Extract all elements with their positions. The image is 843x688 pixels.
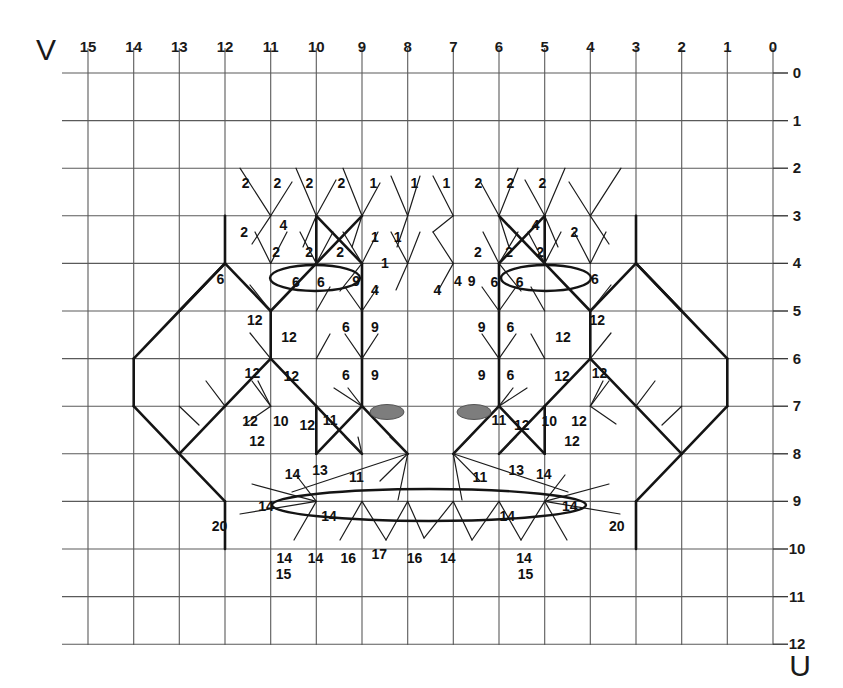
top-tick-3: 3 (632, 38, 640, 55)
top-axis-tick-labels: 1514131211109876543210 (80, 38, 778, 55)
annotation-12: 4 (532, 217, 540, 233)
annotation-33: 6 (591, 271, 599, 287)
annotation-13: 2 (570, 224, 578, 240)
diagram-canvas: V U 1514131211109876543210 0123456789101… (0, 0, 843, 688)
annotation-38: 9 (478, 319, 486, 335)
axis-label-u: U (789, 649, 811, 682)
right-tick-5: 5 (793, 302, 801, 319)
right-tick-2: 2 (793, 159, 801, 176)
lattice-boundary-paths (134, 216, 728, 549)
annotation-37: 9 (371, 319, 379, 335)
annotation-53: 11 (323, 412, 338, 428)
annotation-36: 6 (342, 319, 350, 335)
annotation-57: 12 (571, 413, 587, 429)
annotation-56: 10 (541, 413, 557, 429)
right-tick-10: 10 (789, 540, 806, 557)
annotation-30: 9 (468, 273, 476, 289)
annotation-59: 12 (564, 433, 580, 449)
top-tick-15: 15 (80, 38, 97, 55)
right-tick-1: 1 (793, 112, 801, 129)
top-tick-2: 2 (677, 38, 685, 55)
right-tick-3: 3 (793, 207, 801, 224)
annotation-9: 2 (538, 175, 546, 191)
annotation-31: 6 (491, 274, 499, 290)
marker-left (370, 405, 404, 420)
annotation-47: 6 (507, 367, 515, 383)
annotation-74: 14 (308, 550, 324, 566)
highlight-ellipse-right (501, 265, 591, 291)
top-tick-6: 6 (495, 38, 503, 55)
annotation-24: 6 (317, 274, 325, 290)
grid-lines (62, 48, 788, 645)
annotation-10: 2 (240, 224, 248, 240)
annotation-7: 2 (475, 175, 483, 191)
annotation-35: 12 (281, 329, 297, 345)
annotation-15: 2 (305, 244, 313, 260)
top-tick-14: 14 (125, 38, 142, 55)
annotation-71: 20 (609, 518, 625, 534)
annotation-21: 2 (536, 244, 544, 260)
annotation-25: 9 (352, 273, 360, 289)
top-tick-13: 13 (171, 38, 188, 55)
annotation-4: 1 (370, 175, 378, 191)
right-tick-8: 8 (793, 445, 801, 462)
annotation-26: 4 (371, 282, 379, 298)
uv-lattice-diagram: V U 1514131211109876543210 0123456789101… (0, 0, 843, 688)
annotation-68: 14 (499, 508, 515, 524)
annotation-17: 1 (371, 229, 379, 245)
annotation-18: 1 (394, 229, 402, 245)
highlight-ellipse-left (270, 265, 360, 291)
annotation-34: 12 (247, 312, 263, 328)
right-axis-tick-labels: 0123456789101112 (789, 64, 806, 652)
top-tick-4: 4 (586, 38, 595, 55)
annotation-46: 9 (478, 367, 486, 383)
annotation-43: 12 (283, 368, 299, 384)
annotation-80: 15 (518, 566, 534, 582)
top-tick-7: 7 (449, 38, 457, 55)
annotation-61: 13 (312, 462, 328, 478)
annotation-50: 12 (242, 413, 258, 429)
marker-right (457, 405, 491, 420)
axis-ticks (773, 73, 788, 644)
annotation-19: 2 (474, 244, 482, 260)
top-tick-12: 12 (217, 38, 234, 55)
annotation-66: 14 (258, 498, 274, 514)
annotation-60: 14 (285, 466, 301, 482)
highlight-ellipses (270, 265, 591, 521)
annotation-2: 2 (306, 175, 314, 191)
annotation-29: 4 (454, 273, 462, 289)
annotation-64: 13 (509, 462, 525, 478)
annotation-11: 4 (280, 217, 288, 233)
annotation-58: 12 (249, 433, 265, 449)
annotation-55: 12 (514, 417, 530, 433)
right-tick-9: 9 (793, 492, 801, 509)
annotation-51: 10 (273, 413, 289, 429)
right-branch-up (636, 263, 682, 311)
annotation-27: 4 (433, 282, 441, 298)
leader-branch-lines (179, 168, 681, 540)
annotation-32: 6 (516, 274, 524, 290)
annotation-67: 14 (321, 508, 337, 524)
annotation-54: 11 (492, 412, 507, 428)
annotation-14: 2 (272, 244, 280, 260)
axis-label-v: V (36, 33, 56, 66)
annotation-52: 12 (299, 417, 315, 433)
annotation-49: 12 (592, 365, 608, 381)
right-tick-0: 0 (793, 64, 801, 81)
annotation-78: 14 (440, 550, 456, 566)
top-tick-1: 1 (723, 38, 731, 55)
annotation-48: 12 (554, 368, 570, 384)
annotation-79: 14 (516, 550, 532, 566)
annotation-23: 6 (292, 274, 300, 290)
annotation-28: 1 (381, 255, 389, 271)
top-tick-11: 11 (263, 38, 279, 55)
annotation-41: 12 (589, 312, 605, 328)
annotation-42: 12 (245, 365, 261, 381)
annotation-45: 9 (371, 367, 379, 383)
right-tick-6: 6 (793, 350, 801, 367)
top-tick-8: 8 (403, 38, 411, 55)
annotation-70: 20 (212, 518, 228, 534)
top-tick-5: 5 (540, 38, 548, 55)
annotation-44: 6 (342, 367, 350, 383)
right-tick-4: 4 (793, 254, 802, 271)
